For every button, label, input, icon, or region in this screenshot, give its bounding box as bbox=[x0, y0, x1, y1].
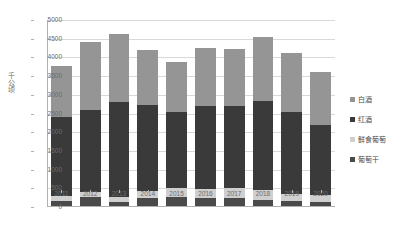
grape-area-stacked-bar-chart: 千公顷 050010001500200025003000350040004500… bbox=[0, 0, 403, 238]
x-axis-tick-label: 2020 bbox=[306, 190, 335, 198]
x-axis-tick-label: 2019 bbox=[277, 190, 306, 198]
x-axis-tick-label: 2018 bbox=[249, 190, 278, 198]
bar-segment[interactable] bbox=[281, 53, 302, 112]
legend-label: 红酒 bbox=[358, 116, 372, 124]
y-axis-tick-mark bbox=[31, 39, 34, 40]
legend-item[interactable]: 葡萄干 bbox=[350, 156, 403, 164]
x-axis-tick-mark bbox=[119, 190, 120, 193]
bar-segment[interactable] bbox=[310, 125, 331, 195]
x-axis-tick-mark bbox=[177, 190, 178, 193]
bar-group[interactable] bbox=[195, 20, 216, 207]
y-axis-tick-label: 0 bbox=[34, 203, 62, 210]
bar-segment[interactable] bbox=[281, 112, 302, 193]
legend-label: 白酒 bbox=[358, 96, 372, 104]
bar-group[interactable] bbox=[281, 20, 302, 207]
x-axis-tick-mark bbox=[292, 190, 293, 193]
bar-segment[interactable] bbox=[109, 102, 130, 197]
bar-group[interactable] bbox=[166, 20, 187, 207]
x-axis-tick-label: 2015 bbox=[162, 190, 191, 198]
bar-group[interactable] bbox=[80, 20, 101, 207]
bar-group[interactable] bbox=[224, 20, 245, 207]
y-axis-title: 千公顷 bbox=[1, 72, 15, 93]
x-axis-tick-label: 2013 bbox=[105, 190, 134, 198]
bar-group[interactable] bbox=[109, 20, 130, 207]
y-axis-tick-mark bbox=[31, 20, 34, 21]
y-axis-tick-label: 5000 bbox=[34, 16, 62, 23]
bar-segment[interactable] bbox=[109, 197, 130, 202]
x-axis-tick-mark bbox=[148, 190, 149, 193]
legend-swatch-icon bbox=[350, 97, 355, 102]
x-axis-tick-mark bbox=[234, 190, 235, 193]
y-axis-tick-label: 1000 bbox=[34, 166, 62, 173]
bar-group[interactable] bbox=[253, 20, 274, 207]
bar-segment[interactable] bbox=[166, 112, 187, 188]
x-axis-tick-mark bbox=[263, 190, 264, 193]
bar-segment[interactable] bbox=[253, 37, 274, 101]
y-axis-tick-mark bbox=[31, 132, 34, 133]
y-axis-tick-label: 3500 bbox=[34, 72, 62, 79]
x-axis-tick-mark bbox=[205, 190, 206, 193]
chart-legend: 白酒红酒鲜食葡萄葡萄干 bbox=[350, 96, 403, 176]
bar-series-container bbox=[47, 20, 335, 207]
bar-segment[interactable] bbox=[80, 110, 101, 192]
x-axis-tick-mark bbox=[321, 190, 322, 193]
y-axis-tick-label: 3000 bbox=[34, 91, 62, 98]
x-axis-tick-label: 2016 bbox=[191, 190, 220, 198]
bar-segment[interactable] bbox=[166, 62, 187, 112]
x-axis-tick-label: 2017 bbox=[220, 190, 249, 198]
y-axis-tick-mark bbox=[31, 57, 34, 58]
bar-segment[interactable] bbox=[195, 48, 216, 106]
legend-item[interactable]: 鲜食葡萄 bbox=[350, 136, 403, 144]
bar-segment[interactable] bbox=[137, 50, 158, 104]
y-axis-tick-mark bbox=[31, 207, 34, 208]
x-axis-line bbox=[47, 206, 335, 207]
legend-swatch-icon bbox=[350, 137, 355, 142]
bar-segment[interactable] bbox=[80, 42, 101, 110]
x-axis-tick-mark bbox=[90, 190, 91, 193]
bar-segment[interactable] bbox=[137, 105, 158, 191]
x-axis-tick-label: 2014 bbox=[133, 190, 162, 198]
bar-segment[interactable] bbox=[224, 106, 245, 188]
legend-item[interactable]: 红酒 bbox=[350, 116, 403, 124]
y-axis-tick-mark bbox=[31, 114, 34, 115]
legend-swatch-icon bbox=[350, 157, 355, 162]
plot-area bbox=[47, 20, 335, 207]
y-axis-tick-mark bbox=[31, 76, 34, 77]
y-axis-tick-label: 2500 bbox=[34, 110, 62, 117]
legend-item[interactable]: 白酒 bbox=[350, 96, 403, 104]
legend-label: 葡萄干 bbox=[358, 156, 379, 164]
x-axis-tick-label: 2012 bbox=[76, 190, 105, 198]
legend-label: 鲜食葡萄 bbox=[358, 136, 386, 144]
x-axis-tick-label: 2011 bbox=[47, 190, 76, 198]
legend-swatch-icon bbox=[350, 117, 355, 122]
y-axis-tick-label: 2000 bbox=[34, 128, 62, 135]
y-axis-tick-label: 4000 bbox=[34, 53, 62, 60]
x-axis-tick-mark bbox=[61, 190, 62, 193]
bar-group[interactable] bbox=[310, 20, 331, 207]
y-axis-tick-label: 1500 bbox=[34, 147, 62, 154]
y-axis-tick-mark bbox=[31, 170, 34, 171]
bar-segment[interactable] bbox=[253, 101, 274, 190]
y-axis-tick-mark bbox=[31, 188, 34, 189]
y-axis-tick-mark bbox=[31, 95, 34, 96]
bar-segment[interactable] bbox=[224, 49, 245, 106]
bar-segment[interactable] bbox=[109, 34, 130, 102]
bar-segment[interactable] bbox=[195, 106, 216, 189]
bar-group[interactable] bbox=[137, 20, 158, 207]
y-axis-tick-mark bbox=[31, 151, 34, 152]
y-axis-tick-label: 4500 bbox=[34, 35, 62, 42]
bar-segment[interactable] bbox=[310, 72, 331, 125]
